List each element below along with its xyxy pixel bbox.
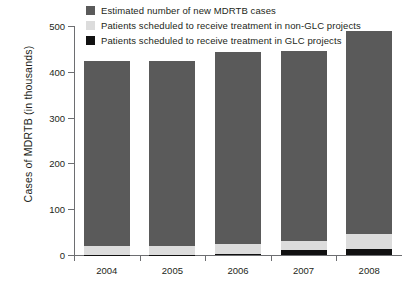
y-axis-line <box>74 26 75 255</box>
chart-figure: Estimated number of new MDRTB cases Pati… <box>0 0 410 288</box>
x-axis-tick <box>74 255 75 261</box>
bar-segment-non-glc <box>346 234 392 248</box>
y-axis-tick <box>68 118 74 119</box>
x-axis-tick-label: 2004 <box>96 265 117 276</box>
bar-segment-glc <box>281 250 327 255</box>
x-axis-tick-label: 2005 <box>162 265 183 276</box>
bar-2005[interactable] <box>149 61 195 255</box>
y-axis-tick-label: 100 <box>49 204 65 215</box>
bar-segment-estimated-cases <box>84 61 130 246</box>
bar-segment-non-glc <box>149 246 195 255</box>
legend-item-estimated-cases: Estimated number of new MDRTB cases <box>86 4 361 17</box>
bar-segment-non-glc <box>84 246 130 255</box>
bar-2006[interactable] <box>215 52 261 255</box>
bar-segment-estimated-cases <box>215 52 261 243</box>
bar-2008[interactable] <box>346 31 392 255</box>
bar-segment-estimated-cases <box>149 61 195 246</box>
y-axis-tick-label: 300 <box>49 112 65 123</box>
y-axis-tick <box>68 209 74 210</box>
bar-segment-non-glc <box>281 241 327 250</box>
bar-segment-glc <box>215 254 261 255</box>
x-axis-tick-label: 2008 <box>359 265 380 276</box>
y-axis-tick <box>68 26 74 27</box>
x-axis-tick-label: 2007 <box>293 265 314 276</box>
legend-label: Estimated number of new MDRTB cases <box>101 5 276 16</box>
bar-segment-glc <box>346 249 392 255</box>
y-axis-tick-label: 0 <box>60 250 65 261</box>
x-axis-tick <box>205 255 206 261</box>
x-axis-line <box>74 255 402 256</box>
bar-segment-estimated-cases <box>346 31 392 234</box>
y-axis-title: Cases of MDRTB (in thousands) <box>22 34 34 214</box>
x-axis-tick-label: 2006 <box>227 265 248 276</box>
bar-2004[interactable] <box>84 61 130 255</box>
x-axis-tick <box>271 255 272 261</box>
bar-segment-estimated-cases <box>281 51 327 241</box>
bar-segment-non-glc <box>215 244 261 254</box>
y-axis-tick-label: 200 <box>49 158 65 169</box>
y-axis-tick-label: 500 <box>49 21 65 32</box>
x-axis-tick <box>336 255 337 261</box>
bar-2007[interactable] <box>281 51 327 255</box>
y-axis-tick <box>68 72 74 73</box>
y-axis-tick-label: 400 <box>49 66 65 77</box>
legend-swatch-icon <box>86 6 95 15</box>
y-axis-tick <box>68 163 74 164</box>
plot-area: 0100200300400500 20042005200620072008 <box>74 26 402 255</box>
x-axis-tick <box>140 255 141 261</box>
